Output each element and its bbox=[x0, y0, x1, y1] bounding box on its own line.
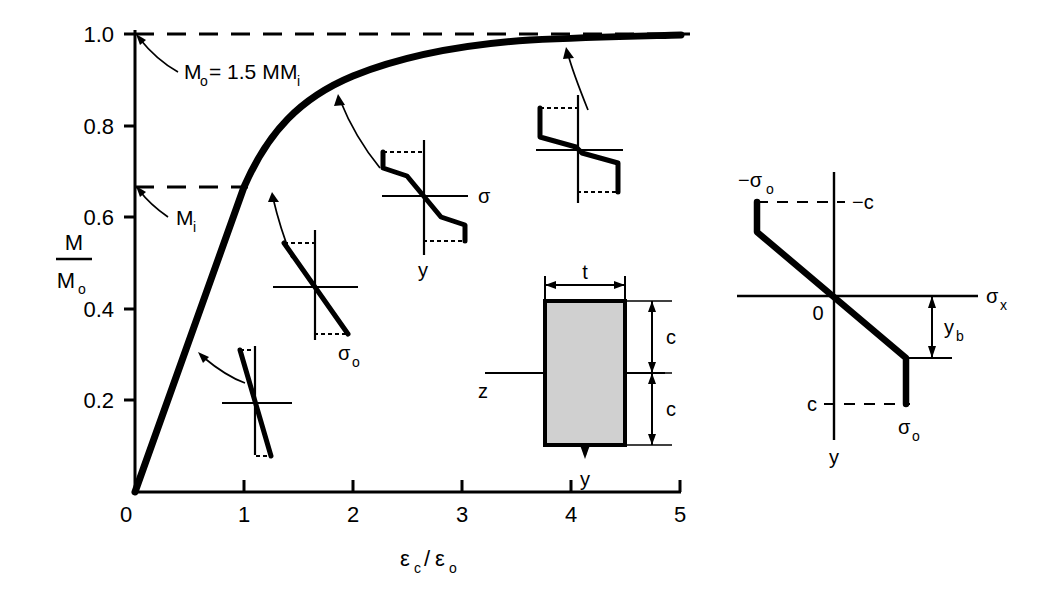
cross-section-inset: t c c z y bbox=[478, 261, 676, 490]
y-axis-title-denominator: M bbox=[57, 268, 75, 293]
x-axis-title-eps-o-sub: o bbox=[449, 560, 457, 576]
inset-nearly-plastic-arrowhead bbox=[563, 47, 574, 59]
inset-partially-plastic: σ y bbox=[334, 94, 491, 281]
stress-diagram-yb-arrow-down bbox=[928, 346, 936, 358]
stress-diagram-pos-c-label: c bbox=[807, 393, 817, 415]
y-tick-label-0.2: 0.2 bbox=[83, 388, 114, 413]
stress-diagram-yb-label-sub: b bbox=[956, 328, 964, 344]
x-axis-title-eps-c-sub: c bbox=[414, 560, 421, 576]
inset-elastic bbox=[198, 346, 292, 456]
annotation-Mo-leader bbox=[139, 38, 178, 72]
figure-svg: 1.0 0.8 0.6 0.4 0.2 0 1 2 3 4 5 M M o ε … bbox=[0, 0, 1038, 589]
stress-diagram-sigma-x-sub: x bbox=[1000, 297, 1007, 313]
cross-section-c-arrow-bot-down bbox=[648, 434, 656, 445]
annotation-Mo-text-Mi-sub: i bbox=[297, 73, 300, 89]
y-tick-label-0.8: 0.8 bbox=[83, 114, 114, 139]
y-axis-title: M M o bbox=[56, 230, 92, 297]
y-tick-label-0.4: 0.4 bbox=[83, 297, 114, 322]
cross-section-t-arrow-right bbox=[614, 281, 625, 289]
cross-section-y-arrowhead bbox=[580, 445, 590, 459]
annotation-Mo-text-M-sub: o bbox=[200, 73, 208, 89]
cross-section-c-label-bottom: c bbox=[666, 398, 676, 420]
figure-canvas: 1.0 0.8 0.6 0.4 0.2 0 1 2 3 4 5 M M o ε … bbox=[0, 0, 1038, 589]
cross-section-t-label: t bbox=[582, 261, 588, 283]
inset-initial-yield-sigma-sub: o bbox=[352, 354, 360, 370]
annotation-Mo-text-eq: = 1.5 M bbox=[209, 60, 280, 83]
cross-section-c-arrow-bot-up bbox=[648, 373, 656, 384]
stress-diagram-profile bbox=[757, 202, 906, 404]
annotation-Mi: M i bbox=[136, 186, 196, 235]
cross-section-z-label: z bbox=[478, 380, 488, 402]
annotation-Mo: M o = 1.5 M M i bbox=[136, 34, 300, 89]
y-tick-label-0.6: 0.6 bbox=[83, 205, 114, 230]
stress-diagram-sigma-o-sub: o bbox=[912, 428, 920, 444]
y-tick-label-1.0: 1.0 bbox=[83, 22, 114, 47]
x-tick-label-1: 1 bbox=[238, 502, 250, 527]
stress-distribution-diagram: y b −σ o −c 0 c σ o σ x y bbox=[0, 169, 1007, 468]
x-axis-title-eps-c: ε bbox=[400, 546, 410, 571]
stress-diagram-yb-arrow-up bbox=[928, 296, 936, 308]
y-tick-label-0: 0 bbox=[120, 502, 132, 527]
x-tick-label-4: 4 bbox=[565, 502, 577, 527]
stress-diagram-neg-c-label: −c bbox=[852, 191, 874, 213]
inset-initial-yield-sigma-label: σ bbox=[338, 342, 351, 364]
x-tick-labels: 1 2 3 4 5 bbox=[238, 502, 686, 527]
stress-diagram-neg-sigma-o-label: −σ bbox=[738, 169, 763, 191]
x-axis-title-slash: / bbox=[424, 546, 431, 571]
inset-elastic-leader bbox=[203, 357, 245, 383]
y-axis-title-denominator-sub: o bbox=[78, 281, 86, 297]
cross-section-t-arrow-left bbox=[545, 281, 556, 289]
y-tick-labels: 1.0 0.8 0.6 0.4 0.2 0 bbox=[83, 22, 132, 527]
cross-section-y-label: y bbox=[580, 468, 590, 490]
stress-diagram-neg-sigma-o-sub: o bbox=[766, 181, 774, 197]
x-axis-title: ε c / ε o bbox=[400, 546, 457, 576]
inset-initial-yield: σ o bbox=[268, 192, 360, 370]
x-tick-label-3: 3 bbox=[456, 502, 468, 527]
annotation-Mi-text: M bbox=[176, 206, 194, 229]
stress-diagram-y-label: y bbox=[829, 446, 839, 468]
x-axis-title-eps-o: ε bbox=[435, 546, 445, 571]
annotation-Mi-text-sub: i bbox=[193, 219, 196, 235]
x-tick-label-5: 5 bbox=[674, 502, 686, 527]
inset-nearly-plastic bbox=[536, 47, 623, 203]
cross-section-c-arrow-top-down bbox=[648, 362, 656, 373]
y-axis-title-numerator: M bbox=[65, 230, 83, 255]
cross-section-c-label-top: c bbox=[666, 326, 676, 348]
x-tick-label-2: 2 bbox=[347, 502, 359, 527]
inset-partially-plastic-sigma-label: σ bbox=[478, 185, 491, 207]
inset-initial-yield-arrowhead bbox=[268, 192, 279, 202]
inset-partially-plastic-leader bbox=[340, 100, 380, 168]
annotation-Mo-text-M: M bbox=[184, 60, 202, 83]
annotation-Mo-text-Mi: M bbox=[280, 60, 298, 83]
inset-partially-plastic-arrowhead bbox=[334, 94, 345, 106]
stress-diagram-origin-label: 0 bbox=[812, 302, 823, 324]
stress-diagram-sigma-x-label: σ bbox=[986, 285, 999, 307]
cross-section-c-arrow-top-up bbox=[648, 301, 656, 312]
stress-diagram-sigma-o-label: σ bbox=[898, 416, 911, 438]
cross-section-rectangle bbox=[545, 301, 625, 445]
inset-partially-plastic-y-label: y bbox=[418, 259, 428, 281]
stress-diagram-yb-label: y bbox=[944, 316, 954, 338]
